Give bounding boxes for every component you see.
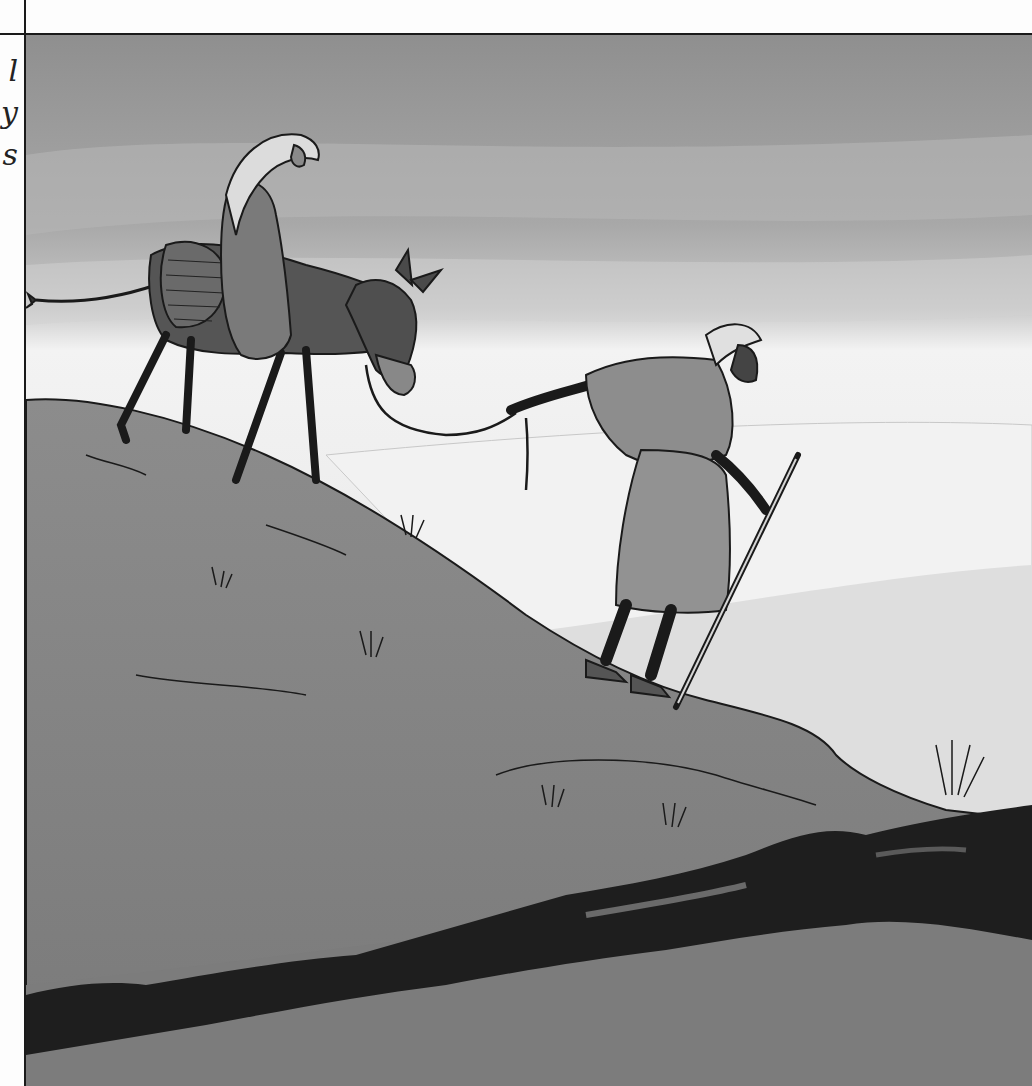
illustration	[26, 35, 1032, 1086]
margin-glyph: s	[0, 134, 18, 176]
margin-glyph: y	[0, 92, 18, 134]
cropped-margin-text: l y s	[0, 50, 22, 176]
book-page: l y s	[0, 0, 1032, 1086]
joseph-robe	[616, 450, 730, 613]
donkey-leg	[186, 340, 191, 430]
margin-glyph: l	[0, 50, 18, 92]
